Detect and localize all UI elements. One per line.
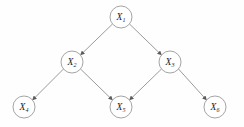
node-x4[interactable]: X4 [13, 96, 35, 118]
edge-x3-to-x5 [130, 69, 162, 100]
edge-x1-to-x3 [130, 24, 162, 55]
node-x3[interactable]: X3 [159, 51, 181, 73]
edge-x2-to-x4 [33, 69, 64, 100]
nodes-group: X1X2X3X4X5X6 [13, 6, 226, 118]
node-x6[interactable]: X6 [204, 96, 226, 118]
edge-x2-to-x5 [81, 69, 113, 100]
dag-figure: X1X2X3X4X5X6 [0, 0, 244, 127]
node-x2[interactable]: X2 [61, 51, 83, 73]
edge-x1-to-x2 [81, 24, 113, 55]
node-x5[interactable]: X5 [110, 96, 132, 118]
node-x1[interactable]: X1 [110, 6, 132, 28]
dag-canvas: X1X2X3X4X5X6 [0, 0, 244, 127]
edge-x3-to-x6 [179, 69, 207, 100]
